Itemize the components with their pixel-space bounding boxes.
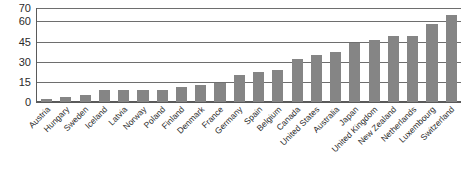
y-axis-tick-label: 70: [19, 3, 31, 14]
x-label-slot: Latvia: [113, 103, 132, 173]
bar-slot: [133, 8, 152, 102]
bar[interactable]: [349, 43, 360, 102]
bar-slot: [403, 8, 422, 102]
x-label-slot: Sweden: [75, 103, 94, 173]
bar[interactable]: [253, 72, 264, 102]
bars-layer: [37, 8, 461, 102]
bar-slot: [56, 8, 75, 102]
bar[interactable]: [157, 90, 168, 102]
bar-slot: [287, 8, 306, 102]
bar[interactable]: [195, 85, 206, 102]
bar-slot: [191, 8, 210, 102]
y-axis: 01530456070: [0, 0, 34, 110]
bar[interactable]: [330, 52, 341, 102]
x-label-slot: Denmark: [190, 103, 209, 173]
bar-slot: [268, 8, 287, 102]
bar[interactable]: [60, 97, 71, 102]
y-axis-tick-label: 30: [19, 56, 31, 67]
bar-slot: [384, 8, 403, 102]
bar[interactable]: [426, 24, 437, 102]
bar-chart: 01530456070 AustriaHungarySwedenIcelandL…: [0, 0, 463, 175]
bar[interactable]: [446, 15, 457, 102]
bar-slot: [95, 8, 114, 102]
bar[interactable]: [388, 36, 399, 102]
bar-slot: [422, 8, 441, 102]
y-axis-tick-label: 60: [19, 16, 31, 27]
bar[interactable]: [311, 55, 322, 102]
bar[interactable]: [272, 70, 283, 102]
bar-slot: [172, 8, 191, 102]
bar-slot: [345, 8, 364, 102]
x-label-slot: Switzerland: [441, 103, 460, 173]
bar-slot: [442, 8, 461, 102]
x-label-slot: Hungary: [55, 103, 74, 173]
bar[interactable]: [214, 83, 225, 102]
bar[interactable]: [137, 90, 148, 102]
bar-slot: [326, 8, 345, 102]
bar-slot: [153, 8, 172, 102]
x-label-slot: France: [209, 103, 228, 173]
y-axis-tick-label: 45: [19, 36, 31, 47]
x-label-slot: United States: [306, 103, 325, 173]
bar[interactable]: [407, 36, 418, 102]
y-axis-tick-label: 0: [25, 97, 31, 108]
bar[interactable]: [176, 87, 187, 102]
bar[interactable]: [80, 95, 91, 102]
x-label-slot: Spain: [248, 103, 267, 173]
x-label-slot: Poland: [152, 103, 171, 173]
x-label-slot: Finland: [171, 103, 190, 173]
bar-slot: [76, 8, 95, 102]
bar-slot: [37, 8, 56, 102]
x-label-slot: Iceland: [94, 103, 113, 173]
bar-slot: [365, 8, 384, 102]
bar-slot: [210, 8, 229, 102]
bar-slot: [307, 8, 326, 102]
bar[interactable]: [99, 90, 110, 102]
bar-slot: [114, 8, 133, 102]
x-label-slot: Austria: [36, 103, 55, 173]
y-axis-tick-label: 15: [19, 76, 31, 87]
bar[interactable]: [234, 75, 245, 102]
bar[interactable]: [41, 99, 52, 102]
bar-slot: [230, 8, 249, 102]
x-label-slot: Norway: [132, 103, 151, 173]
plot-area: [36, 8, 461, 103]
bar[interactable]: [118, 90, 129, 102]
x-axis: AustriaHungarySwedenIcelandLatviaNorwayP…: [36, 103, 460, 173]
bar-slot: [249, 8, 268, 102]
bar[interactable]: [292, 59, 303, 102]
x-label-slot: Germany: [229, 103, 248, 173]
bar[interactable]: [369, 40, 380, 102]
